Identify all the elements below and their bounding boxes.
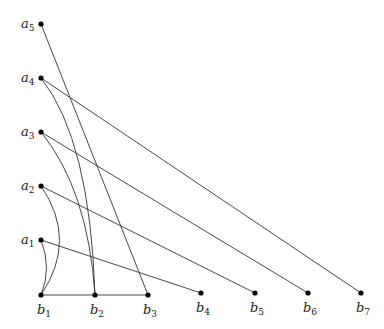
edge-a4-b2 bbox=[41, 78, 95, 295]
edge-a4-b7 bbox=[41, 78, 361, 293]
node-b5 bbox=[252, 290, 257, 295]
node-b6 bbox=[305, 290, 310, 295]
label-b1: b1 bbox=[37, 302, 51, 319]
node-a2 bbox=[38, 183, 43, 188]
label-b3: b3 bbox=[143, 302, 157, 319]
edge-a5-b3 bbox=[41, 24, 148, 295]
label-a4: a4 bbox=[21, 70, 35, 87]
label-b6: b6 bbox=[303, 300, 317, 317]
edge-a3-b2 bbox=[41, 132, 95, 295]
label-b4: b4 bbox=[196, 300, 210, 317]
node-b4 bbox=[198, 290, 203, 295]
edge-a2-b5 bbox=[41, 186, 255, 293]
node-b7 bbox=[358, 290, 363, 295]
node-b3 bbox=[145, 292, 150, 297]
node-a5 bbox=[38, 21, 43, 26]
node-b1 bbox=[38, 292, 43, 297]
label-a1: a1 bbox=[21, 232, 35, 249]
node-a3 bbox=[38, 129, 43, 134]
node-a4 bbox=[38, 75, 43, 80]
node-a1 bbox=[38, 237, 43, 242]
labels: a5 a4 a3 a2 a1 b1 b2 b3 b4 b5 b6 b7 bbox=[21, 16, 370, 319]
label-b2: b2 bbox=[90, 302, 104, 319]
bipartite-graph-diagram: a5 a4 a3 a2 a1 b1 b2 b3 b4 b5 b6 b7 bbox=[0, 0, 384, 329]
label-a2: a2 bbox=[21, 178, 35, 195]
label-b7: b7 bbox=[356, 300, 370, 317]
label-b5: b5 bbox=[250, 300, 264, 317]
edge-a1-b4 bbox=[41, 240, 201, 293]
edges bbox=[41, 24, 361, 295]
label-a5: a5 bbox=[21, 16, 35, 33]
node-b2 bbox=[92, 292, 97, 297]
label-a3: a3 bbox=[21, 124, 35, 141]
